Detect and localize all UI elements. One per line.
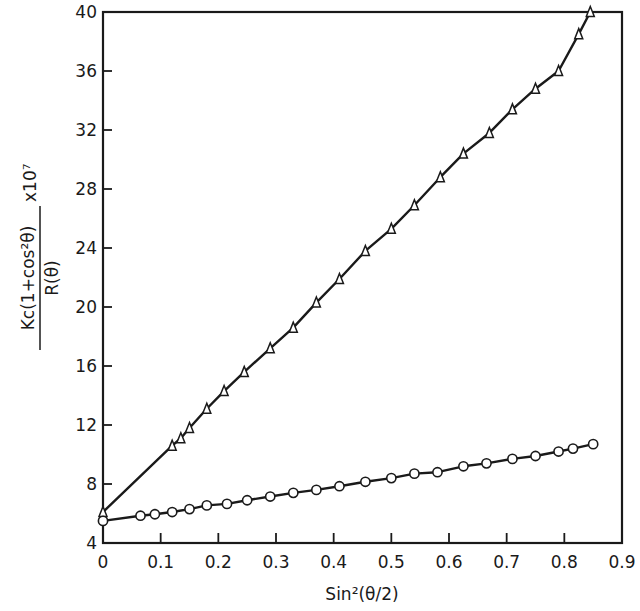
circle-marker [531,451,540,460]
x-axis-ticks: 00.10.20.30.40.50.60.70.80.9 [98,533,636,572]
series-lines [103,12,593,521]
y-tick-label: 4 [86,533,97,553]
y-tick-label: 36 [75,61,97,81]
x-tick-label: 0.1 [147,552,174,572]
circle-marker [387,474,396,483]
circle-marker [459,462,468,471]
x-tick-label: 0.7 [493,552,520,572]
x-tick-label: 0.9 [608,552,635,572]
x-tick-label: 0.8 [551,552,578,572]
circle-marker [335,482,344,491]
y-axis-title: Kc(1+cos²θ) R(θ) x10⁷ [18,163,62,350]
y-axis-ticks: 481216202428323640 [75,2,112,553]
triangle-marker [361,245,369,255]
y-tick-label: 40 [75,2,97,22]
circle-marker [98,516,107,525]
circle-marker [222,499,231,508]
y-tick-label: 12 [75,415,97,435]
triangle-marker [532,83,540,93]
triangle-marker [459,148,467,158]
circle-marker [202,501,211,510]
chart: 00.10.20.30.40.50.60.70.80.9 48121620242… [0,0,640,611]
series-markers [98,7,597,526]
circle-marker [361,477,370,486]
circle-marker [243,496,252,505]
circle-marker [185,504,194,513]
circle-marker [554,447,563,456]
x-tick-label: 0.2 [205,552,232,572]
circle-marker [482,459,491,468]
x-tick-label: 0.3 [262,552,289,572]
circle-marker [312,485,321,494]
y-axis-title-denominator: R(θ) [42,260,62,295]
circle-marker [168,507,177,516]
y-tick-label: 20 [75,297,97,317]
x-tick-label: 0.4 [320,552,347,572]
circle-marker [266,492,275,501]
x-tick-label: 0.5 [378,552,405,572]
circle-marker [589,440,598,449]
y-axis-title-multiplier: x10⁷ [20,163,40,202]
y-tick-label: 32 [75,120,97,140]
plot-frame [103,12,622,543]
triangle-marker [168,440,176,450]
y-tick-label: 16 [75,356,97,376]
y-tick-label: 24 [75,238,97,258]
triangles-series-line [103,12,590,512]
y-tick-label: 28 [75,179,97,199]
circle-marker [150,510,159,519]
x-axis-title: Sin²(θ/2) [325,584,398,604]
y-axis-title-numerator: Kc(1+cos²θ) [18,226,38,331]
x-tick-label: 0 [98,552,109,572]
circle-marker [568,444,577,453]
triangle-marker [586,7,594,17]
y-tick-label: 8 [86,474,97,494]
circle-marker [410,469,419,478]
circle-marker [136,511,145,520]
x-tick-label: 0.6 [435,552,462,572]
circle-marker [289,488,298,497]
circle-marker [508,454,517,463]
circle-marker [433,468,442,477]
plot-border [103,12,622,543]
